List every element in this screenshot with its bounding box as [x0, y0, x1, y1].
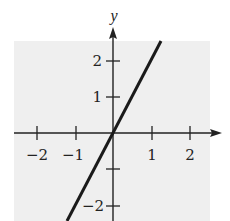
x-tick-label: −1 [62, 146, 84, 164]
coordinate-plane: −2 −1 1 2 2 1 −2 y [0, 0, 230, 221]
y-axis-label: y [108, 7, 118, 25]
y-tick-label: 1 [92, 88, 102, 106]
plot-background [14, 41, 210, 221]
y-tick-label: 2 [92, 52, 102, 70]
y-tick-label: −2 [82, 197, 104, 215]
x-tick-label: −2 [26, 146, 48, 164]
x-tick-label: 1 [147, 146, 157, 164]
x-tick-label: 2 [185, 146, 195, 164]
